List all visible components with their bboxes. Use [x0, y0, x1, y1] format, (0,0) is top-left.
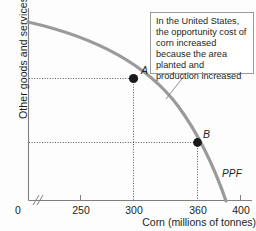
x-axis-label: Corn (millions of tonnes) — [120, 216, 256, 228]
xtick-label-0: 0 — [1, 204, 35, 216]
xtick-label-250: 250 — [64, 204, 98, 216]
point-b-marker — [193, 138, 202, 147]
xtick-label-400: 400 — [224, 204, 256, 216]
y-axis-label: Other goods and services — [17, 0, 29, 133]
xtick-label-300: 300 — [117, 204, 151, 216]
point-b-label: B — [203, 128, 210, 140]
point-a-label: A — [141, 64, 148, 76]
annotation-textbox: In the United States, the opportunity co… — [150, 12, 254, 74]
point-a-marker — [129, 74, 138, 83]
ppf-figure: Other goods and services Corn (millions … — [0, 0, 256, 231]
ppf-curve-label: PPF — [222, 168, 242, 179]
xtick-label-360: 360 — [181, 204, 215, 216]
